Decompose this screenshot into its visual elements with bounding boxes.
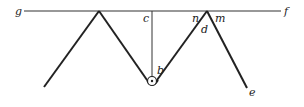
pulley-axle-icon bbox=[151, 80, 153, 82]
label-e: e bbox=[249, 86, 256, 99]
right-arm-inner bbox=[157, 11, 207, 80]
label-m: m bbox=[215, 12, 225, 25]
right-arm-outer bbox=[207, 11, 247, 88]
label-f: f bbox=[283, 5, 290, 18]
label-c: c bbox=[143, 12, 149, 25]
left-arm-outer bbox=[44, 11, 99, 87]
diagram-canvas: g f c n m d b e bbox=[0, 0, 304, 107]
label-d: d bbox=[201, 23, 208, 36]
label-g: g bbox=[15, 5, 22, 18]
label-b: b bbox=[157, 64, 164, 77]
left-arm-inner bbox=[99, 11, 147, 80]
label-n: n bbox=[192, 12, 199, 25]
